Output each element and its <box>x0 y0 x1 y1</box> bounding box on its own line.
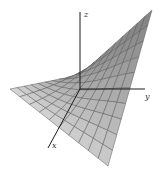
x-axis-label: x <box>52 141 57 150</box>
saddle-surface-mesh <box>10 10 152 166</box>
surface-plot: z y x <box>0 0 164 177</box>
z-axis-label: z <box>83 10 89 19</box>
y-axis-label: y <box>144 92 150 101</box>
